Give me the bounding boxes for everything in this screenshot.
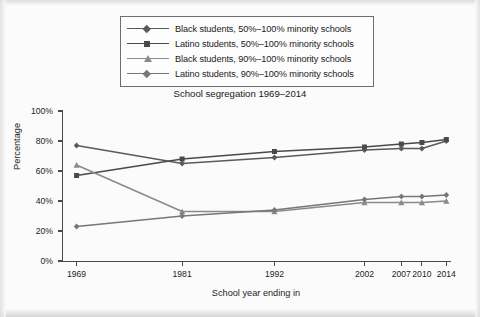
y-axis-tick-label: 40%	[19, 196, 53, 206]
data-point-square	[362, 145, 367, 150]
data-point-diamond	[398, 194, 404, 200]
legend-item: Latino students, 50%–100% minority schoo…	[127, 36, 367, 51]
series-line	[74, 192, 450, 229]
legend-item: Latino students, 90%–100% minority schoo…	[127, 66, 367, 81]
data-point-square	[419, 140, 424, 145]
x-axis-tick	[421, 261, 422, 266]
x-axis-tick	[446, 261, 447, 266]
x-axis-tick-label: 2014	[437, 269, 456, 279]
series-line	[73, 162, 449, 214]
y-axis-tick-label: 100%	[19, 106, 53, 116]
x-axis-tick-label: 1981	[173, 269, 192, 279]
data-point-square	[74, 173, 79, 178]
data-point-diamond	[419, 146, 425, 152]
legend-marker-line-icon	[127, 52, 169, 66]
x-axis-label: School year ending in	[62, 288, 450, 298]
legend-marker-diamond-icon	[143, 69, 151, 77]
legend-item: Black students, 50%–100% minority school…	[127, 21, 367, 36]
y-axis-tick	[58, 230, 63, 231]
page-scan-edge-top	[0, 0, 480, 5]
legend-marker-line-icon	[127, 67, 169, 81]
chart-figure: Black students, 50%–100% minority school…	[0, 0, 480, 317]
data-point-diamond	[74, 143, 80, 149]
chart-legend: Black students, 50%–100% minority school…	[120, 16, 374, 87]
data-point-triangle	[73, 162, 79, 168]
data-point-square	[444, 137, 449, 142]
data-point-square	[272, 149, 277, 154]
y-axis-tick	[58, 110, 63, 111]
y-axis-tick-label: 0%	[19, 256, 53, 266]
y-axis-tick	[58, 170, 63, 171]
y-axis-label: Percentage	[12, 123, 22, 170]
legend-marker-line-icon	[127, 22, 169, 36]
legend-marker-triangle-icon	[144, 55, 152, 62]
page-scan-edge-right	[475, 0, 480, 317]
x-axis-tick-label: 1992	[265, 269, 284, 279]
x-axis-tick-label: 2002	[355, 269, 374, 279]
x-axis-tick-label: 2010	[412, 269, 431, 279]
data-point-square	[399, 142, 404, 147]
y-axis-tick-label: 20%	[19, 226, 53, 236]
x-axis-tick	[182, 261, 183, 266]
x-axis-tick	[76, 261, 77, 266]
chart-title: School segregation 1969–2014	[0, 88, 480, 99]
x-axis-tick-label: 1969	[67, 269, 86, 279]
data-point-diamond	[272, 155, 278, 161]
data-point-diamond	[443, 192, 449, 198]
y-axis-tick-label: 80%	[19, 136, 53, 146]
x-axis-tick	[274, 261, 275, 266]
page-scan-edge-bottom	[0, 309, 480, 317]
legend-item-label: Latino students, 50%–100% minority schoo…	[169, 39, 354, 49]
legend-item-label: Black students, 50%–100% minority school…	[169, 24, 351, 34]
plot-area: 0%20%40%60%80%100%1969198119922002200720…	[62, 111, 451, 262]
data-point-diamond	[362, 197, 368, 203]
legend-item: Black students, 90%–100% minority school…	[127, 51, 367, 66]
legend-item-label: Black students, 90%–100% minority school…	[169, 54, 351, 64]
y-axis-tick	[58, 260, 63, 261]
x-axis-tick	[364, 261, 365, 266]
legend-marker-line-icon	[127, 37, 169, 51]
legend-marker-diamond-icon	[143, 24, 151, 32]
legend-item-label: Latino students, 90%–100% minority schoo…	[169, 69, 354, 79]
x-axis-tick	[401, 261, 402, 266]
y-axis-tick	[58, 140, 63, 141]
series-line	[74, 137, 449, 178]
plot-series-svg	[63, 111, 451, 261]
y-axis-tick-label: 60%	[19, 166, 53, 176]
legend-marker-square-icon	[144, 41, 150, 47]
data-point-diamond	[419, 194, 425, 200]
page-scan-edge-left	[0, 0, 6, 317]
y-axis-tick	[58, 200, 63, 201]
data-point-square	[180, 157, 185, 162]
data-point-diamond	[74, 224, 80, 230]
x-axis-tick-label: 2007	[392, 269, 411, 279]
